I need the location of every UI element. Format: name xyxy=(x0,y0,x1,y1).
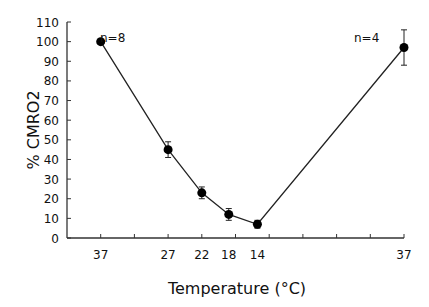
y-tick-label: 20 xyxy=(44,192,59,206)
x-tick-label: 22 xyxy=(194,248,209,262)
data-line xyxy=(101,42,404,225)
data-point xyxy=(400,43,409,52)
y-tick-label: 30 xyxy=(44,173,59,187)
data-point xyxy=(224,210,233,219)
axes: 0102030405060708090100110372722181437 xyxy=(36,16,412,263)
y-tick-label: 10 xyxy=(44,212,59,226)
y-tick-label: 80 xyxy=(44,74,59,88)
chart: 0102030405060708090100110372722181437 n=… xyxy=(0,0,429,307)
y-tick-label: 0 xyxy=(51,232,59,246)
plot-area xyxy=(96,30,408,229)
y-tick-label: 60 xyxy=(44,114,59,128)
x-tick-label: 27 xyxy=(160,248,175,262)
n-left-annotation: n=8 xyxy=(100,31,125,45)
y-tick-label: 70 xyxy=(44,94,59,108)
y-tick-label: 40 xyxy=(44,153,59,167)
x-tick-label: 14 xyxy=(250,248,265,262)
data-point xyxy=(164,145,173,154)
x-tick-label: 37 xyxy=(93,248,108,262)
x-tick-label: 37 xyxy=(396,248,411,262)
n-right-annotation: n=4 xyxy=(354,31,379,45)
y-tick-label: 110 xyxy=(36,16,59,30)
x-axis-label: Temperature (°C) xyxy=(167,279,306,298)
y-tick-label: 100 xyxy=(36,35,59,49)
y-axis-label: % CMRO2 xyxy=(24,90,43,169)
x-tick-label: 18 xyxy=(221,248,236,262)
y-tick-label: 50 xyxy=(44,133,59,147)
data-point xyxy=(253,220,262,229)
y-tick-label: 90 xyxy=(44,55,59,69)
data-point xyxy=(197,188,206,197)
